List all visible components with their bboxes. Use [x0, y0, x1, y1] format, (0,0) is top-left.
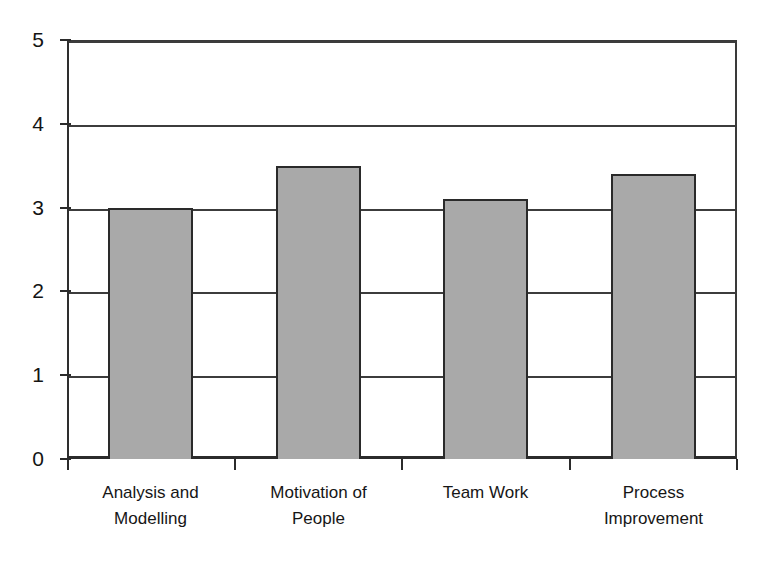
- xlabel-line-2: Improvement: [566, 506, 741, 532]
- xlabel-team-work: Team Work: [398, 480, 573, 506]
- xlabel-line-1: Process: [566, 480, 741, 506]
- ytick-mark-1: [60, 374, 71, 376]
- xlabel-motivation-of-people: Motivation of People: [231, 480, 406, 532]
- xtick-mark-4: [736, 459, 738, 470]
- ytick-mark-0: [60, 458, 71, 460]
- xlabel-line-1: Motivation of: [231, 480, 406, 506]
- ytick-label-2: 2: [4, 280, 44, 301]
- xtick-mark-0: [67, 459, 69, 470]
- bar-motivation-of-people: [276, 166, 361, 459]
- xlabel-analysis-and-modelling: Analysis and Modelling: [63, 480, 238, 532]
- ytick-label-0: 0: [4, 448, 44, 469]
- ytick-label-5: 5: [4, 29, 44, 50]
- bar-analysis-and-modelling: [108, 208, 193, 459]
- xlabel-line-1: Analysis and: [63, 480, 238, 506]
- bar-team-work: [443, 199, 528, 459]
- bar-process-improvement: [611, 174, 696, 459]
- xtick-mark-1: [234, 459, 236, 470]
- ytick-mark-4: [60, 123, 71, 125]
- ytick-label-4: 4: [4, 113, 44, 134]
- ytick-label-1: 1: [4, 364, 44, 385]
- xlabel-line-2: People: [231, 506, 406, 532]
- bar-chart-figure: 5 4 3 2 1 0 Analysis and Modelling Motiv…: [0, 0, 769, 569]
- ytick-mark-5: [60, 39, 71, 41]
- ytick-mark-2: [60, 290, 71, 292]
- xlabel-line-2: Modelling: [63, 506, 238, 532]
- xtick-mark-3: [569, 459, 571, 470]
- bars-layer: [67, 40, 737, 459]
- xlabel-process-improvement: Process Improvement: [566, 480, 741, 532]
- xtick-mark-2: [401, 459, 403, 470]
- xlabel-line-1: Team Work: [398, 480, 573, 506]
- ytick-label-3: 3: [4, 197, 44, 218]
- ytick-mark-3: [60, 207, 71, 209]
